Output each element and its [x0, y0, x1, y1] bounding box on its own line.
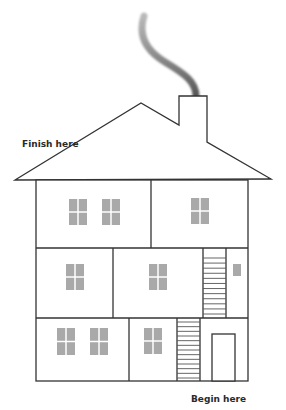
window-pane [79, 213, 87, 225]
window-pane [57, 342, 65, 355]
window-pane [149, 278, 157, 290]
window-pane [76, 278, 84, 290]
window-pane [69, 199, 77, 211]
window-pane [159, 264, 167, 276]
small-window [233, 264, 241, 276]
window-pane [67, 328, 75, 341]
window-pane [191, 212, 199, 224]
window-pane [66, 278, 74, 290]
window-pane [191, 198, 199, 210]
window-pane [201, 212, 209, 224]
window-pane [79, 199, 87, 211]
window-pane [154, 328, 162, 340]
window-pane [112, 213, 120, 225]
window-pane [76, 264, 84, 276]
smoke [142, 16, 196, 96]
roof [15, 96, 271, 180]
window-pane [66, 264, 74, 276]
window-pane [90, 328, 98, 341]
begin-label: Begin here [191, 394, 246, 404]
front-door [212, 334, 235, 381]
window-pane [100, 328, 108, 341]
window-pane [69, 213, 77, 225]
window-pane [144, 342, 152, 354]
window-pane [102, 213, 110, 225]
window-pane [100, 342, 108, 355]
window-pane [144, 328, 152, 340]
window-pane [154, 342, 162, 354]
window-pane [112, 199, 120, 211]
window-pane [90, 342, 98, 355]
window-pane [149, 264, 157, 276]
window-pane [67, 342, 75, 355]
window-pane [57, 328, 65, 341]
house-diagram: Finish here Begin here [0, 0, 286, 410]
finish-label: Finish here [22, 139, 79, 149]
window-pane [201, 198, 209, 210]
window-pane [102, 199, 110, 211]
window-pane [159, 278, 167, 290]
